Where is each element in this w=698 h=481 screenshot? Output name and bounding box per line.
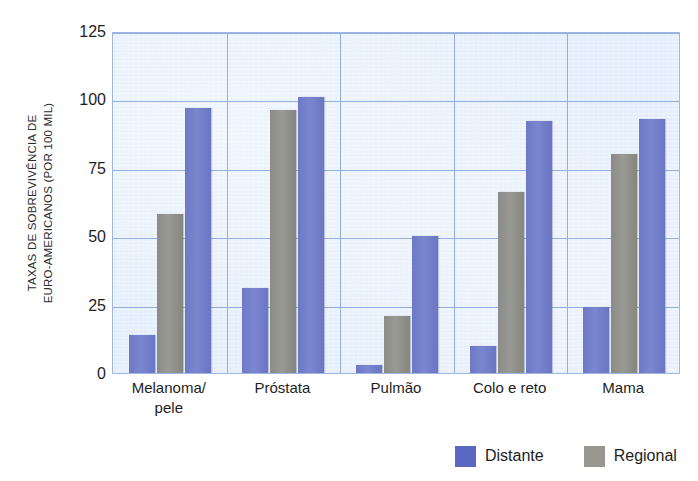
x-tick-label-2: Próstata	[226, 378, 340, 398]
x-tick-label-5-line-1: Mama	[566, 378, 680, 398]
bar-distante-1	[185, 108, 211, 373]
y-tick-100: 100	[66, 92, 106, 108]
bar-distante-2	[298, 97, 324, 373]
x-tick-label-5: Mama	[566, 378, 680, 398]
legend-swatch-distante-icon	[455, 446, 476, 467]
bar-chart-figure: TAXAS DE SOBREVIVÊNCIA DE EURO-AMERICANO…	[0, 0, 698, 481]
bar-regional-5	[611, 154, 637, 373]
x-tick-label-4: Colo e reto	[453, 378, 567, 398]
x-tick-label-1-line-2: pele	[112, 398, 226, 418]
x-tick-label-1: Melanoma/pele	[112, 378, 226, 419]
y-tick-125: 125	[66, 24, 106, 40]
bar-regional-3	[384, 316, 410, 373]
y-tick-50: 50	[66, 229, 106, 245]
y-tick-75: 75	[66, 161, 106, 177]
plot-area	[112, 32, 680, 374]
gridline-h-125	[113, 33, 679, 34]
gridline-h-100	[113, 101, 679, 102]
bar-distante-1	[129, 335, 155, 373]
bar-regional-2	[270, 110, 296, 373]
y-axis-tick-labels: 125 100 75 50 25 0	[60, 0, 106, 481]
bar-distante-3	[412, 236, 438, 373]
gridline-v-3	[454, 33, 455, 373]
x-tick-label-1-line-1: Melanoma/	[112, 378, 226, 398]
bar-distante-5	[639, 119, 665, 373]
gridline-v-2	[340, 33, 341, 373]
bar-distante-2	[242, 288, 268, 373]
legend-label-distante: Distante	[485, 447, 544, 465]
bar-regional-4	[498, 192, 524, 373]
x-axis-tick-labels: Melanoma/pelePróstataPulmãoColo e retoMa…	[112, 378, 680, 426]
gridline-v-4	[567, 33, 568, 373]
x-tick-label-4-line-1: Colo e reto	[453, 378, 567, 398]
bar-distante-5	[583, 307, 609, 373]
x-tick-label-3-line-1: Pulmão	[339, 378, 453, 398]
x-tick-label-3: Pulmão	[339, 378, 453, 398]
y-tick-0: 0	[66, 366, 106, 382]
legend-label-regional: Regional	[614, 447, 677, 465]
bar-distante-3	[356, 365, 382, 373]
x-tick-label-2-line-1: Próstata	[226, 378, 340, 398]
legend-swatch-regional-icon	[584, 446, 605, 467]
legend-item-regional[interactable]: Regional	[584, 446, 677, 467]
y-tick-25: 25	[66, 298, 106, 314]
chart-legend: DistanteRegional	[455, 443, 677, 469]
y-axis-title-line-1: TAXAS DE SOBREVIVÊNCIA DE	[25, 30, 41, 375]
bar-regional-1	[157, 214, 183, 373]
y-axis-title-line-2: EURO-AMERICANOS (POR 100 MIL)	[41, 30, 57, 375]
bar-distante-4	[526, 121, 552, 373]
legend-item-distante[interactable]: Distante	[455, 446, 544, 467]
gridline-v-1	[227, 33, 228, 373]
bar-distante-4	[470, 346, 496, 373]
